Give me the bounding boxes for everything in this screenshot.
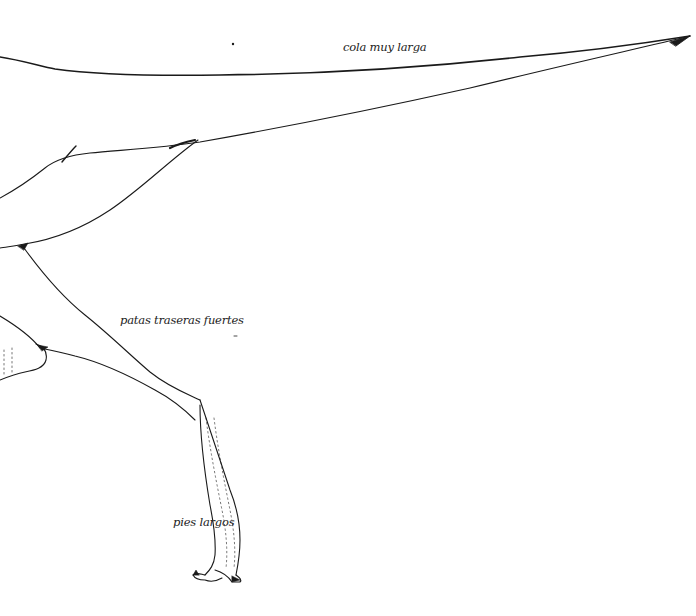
illustration-canvas: cola muy larga patas traseras fuertes pi…: [0, 0, 696, 616]
toe-claw-1: [193, 570, 199, 575]
knee-bump: [0, 344, 46, 380]
shin-back: [200, 400, 240, 575]
back-spike: [62, 146, 76, 162]
leg-front: [0, 316, 195, 420]
dinosaur-line-drawing: [0, 0, 696, 616]
label-hind-legs: patas traseras fuertes: [120, 313, 244, 327]
label-tail: cola muy larga: [343, 40, 426, 54]
shin-front: [200, 405, 215, 575]
hip-line: [0, 140, 198, 248]
tail-joint-accent: [170, 140, 195, 148]
stray-dot: [232, 43, 234, 45]
tail-lower-edge: [0, 36, 690, 198]
scale-dots: [4, 348, 235, 568]
label-feet: pies largos: [173, 515, 234, 529]
